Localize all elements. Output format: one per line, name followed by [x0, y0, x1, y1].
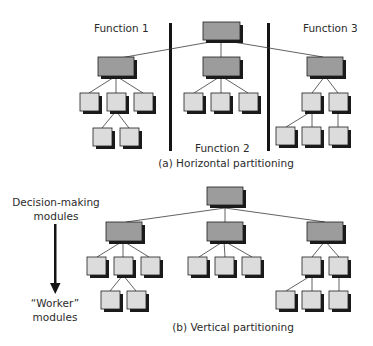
worker-modules-b: [87, 257, 351, 312]
panel-a-horizontal-partitioning: [80, 22, 351, 151]
divider-2: [267, 23, 270, 151]
function-1-module-b: [106, 222, 145, 244]
connector-lines-a: [89, 40, 338, 128]
function-1-label: Function 1: [94, 22, 149, 34]
function-2-label: Function 2: [195, 142, 250, 154]
function-2-module-b: [207, 222, 246, 244]
decision-to-worker-arrow-icon: [50, 224, 61, 294]
worker-label-line2: modules: [33, 311, 78, 323]
function-3-module-a: [307, 57, 346, 79]
decision-making-label-line1: Decision-making: [12, 196, 99, 208]
worker-label-line1: “Worker”: [31, 297, 79, 309]
divider-1: [169, 23, 172, 151]
function-1-module-a: [98, 57, 137, 79]
decision-making-label-line2: modules: [34, 210, 79, 222]
worker-modules-a: [80, 93, 351, 149]
root-module-a: [203, 22, 243, 43]
panel-a-caption: (a) Horizontal partitioning: [158, 157, 294, 169]
root-module-b: [207, 187, 246, 208]
partitioning-diagram: [0, 0, 373, 346]
function-3-module-b: [307, 222, 346, 244]
function-3-label: Function 3: [303, 22, 358, 34]
panel-b-caption: (b) Vertical partitioning: [172, 321, 294, 333]
connector-lines-b: [97, 208, 339, 291]
function-2-module-a: [203, 57, 243, 79]
